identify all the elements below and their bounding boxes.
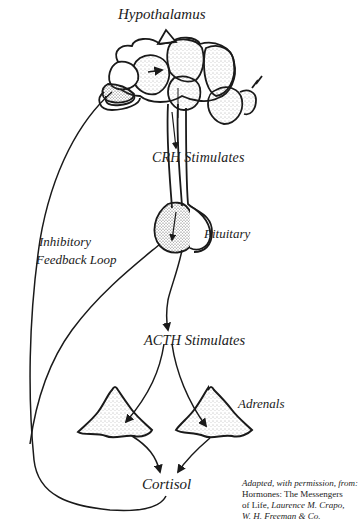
feedback-label-line1: Inhibitory [36,233,117,251]
adrenals-label: Adrenals [238,396,284,412]
feedback-label-line2: Feedback Loop [36,251,117,269]
credit-line1: Adapted, with permission, from: [242,478,358,489]
hypothalamus-label: Hypothalamus [118,6,206,23]
pituitary-label: Pituitary [204,226,250,242]
source-credit: Adapted, with permission, from: Hormones… [242,478,358,522]
adrenal-left-illustration [78,387,152,437]
pituitary-illustration [154,203,210,253]
cortisol-label: Cortisol [142,476,191,493]
inhibitory-feedback-label: Inhibitory Feedback Loop [36,233,117,269]
credit-author: Laurence M. Crapo, [271,500,344,510]
crh-stimulates-label: CRH Stimulates [152,150,245,166]
credit-line3-prefix: of Life, [242,500,271,510]
credit-line4: W. H. Freeman & Co. [242,511,358,522]
credit-line3: of Life, Laurence M. Crapo, [242,500,358,511]
acth-stimulates-label: ACTH Stimulates [144,332,245,349]
credit-line2: Hormones: The Messengers [242,489,358,500]
